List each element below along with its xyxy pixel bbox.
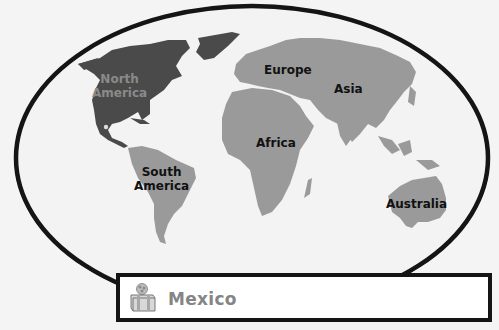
answer-text: Mexico	[168, 289, 237, 309]
answer-box-frame	[0, 0, 499, 330]
gift-box-icon	[128, 281, 158, 313]
